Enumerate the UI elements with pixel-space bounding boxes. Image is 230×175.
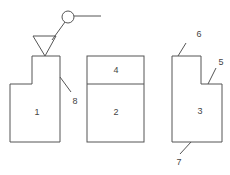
part-4-label: 4	[113, 65, 118, 75]
callout-6-label: 6	[196, 29, 201, 39]
part-2-label: 2	[113, 107, 118, 117]
callout-7-label: 7	[176, 157, 181, 167]
part-1-shape	[10, 56, 60, 142]
part-3-shape	[172, 56, 222, 142]
part-3-label: 3	[197, 106, 202, 116]
callout-6-leader	[178, 43, 186, 56]
diagonal-connector	[52, 22, 65, 40]
callout-5-label: 5	[218, 57, 223, 67]
circle-icon	[62, 11, 74, 23]
callout-8-label: 8	[72, 96, 77, 106]
circle-pointer-symbol	[52, 11, 101, 40]
diagram-canvas: 1 8 4 2 3 6 5 7	[0, 0, 230, 175]
callout-7-leader	[180, 142, 191, 154]
part-1-label: 1	[34, 107, 39, 117]
callout-8-leader	[60, 77, 71, 92]
callout-5-leader	[208, 68, 216, 84]
